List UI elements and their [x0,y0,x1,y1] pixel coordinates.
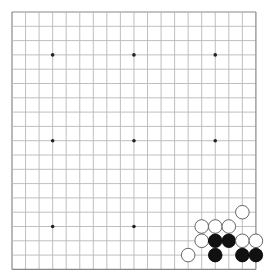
star-point [213,139,217,143]
black-stone[interactable] [208,248,222,262]
star-point [132,53,136,57]
white-stone[interactable] [181,248,195,262]
black-stone[interactable] [208,234,222,248]
white-stone[interactable] [222,220,236,234]
black-stone[interactable] [249,248,263,262]
star-point [132,225,136,229]
white-stone[interactable] [195,234,209,248]
go-board[interactable] [0,0,274,278]
white-stone[interactable] [236,205,250,219]
white-stone[interactable] [195,220,209,234]
white-stone[interactable] [236,234,250,248]
white-stone[interactable] [208,220,222,234]
star-point [51,53,55,57]
stones-layer[interactable] [181,205,262,262]
star-point [51,225,55,229]
white-stone[interactable] [249,234,263,248]
star-point [51,139,55,143]
black-stone[interactable] [236,248,250,262]
star-point [132,139,136,143]
star-point [213,53,217,57]
black-stone[interactable] [222,234,236,248]
